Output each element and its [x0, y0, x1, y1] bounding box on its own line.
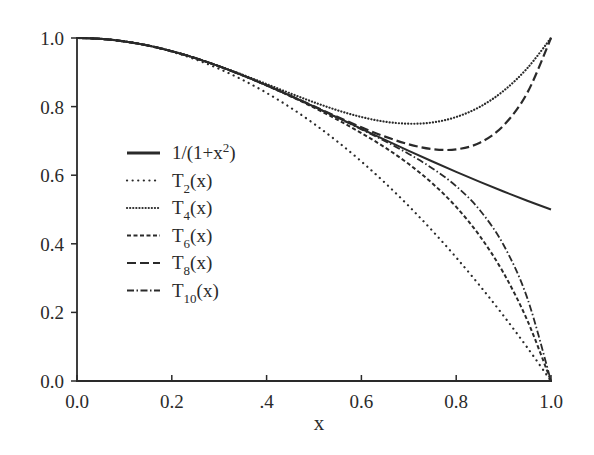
- legend-item: T6(x): [127, 225, 212, 251]
- x-tick-label: .4: [259, 391, 274, 412]
- legend-label: T6(x): [172, 225, 212, 251]
- x-axis-title: x: [314, 411, 325, 435]
- series-line-1: [77, 38, 551, 381]
- x-tick-label: 1.0: [539, 391, 563, 412]
- y-tick-label: 0.8: [40, 97, 64, 118]
- series-line-4: [77, 38, 551, 150]
- series-line-3: [77, 38, 551, 381]
- legend-item: T8(x): [127, 252, 212, 278]
- legend-label: T10(x): [172, 280, 219, 306]
- legend-item: T2(x): [127, 170, 212, 196]
- legend-label: T2(x): [172, 170, 212, 196]
- series-line-0: [77, 38, 551, 210]
- legend-item: T4(x): [127, 197, 212, 223]
- x-tick-label: 0.0: [65, 391, 89, 412]
- series-line-5: [77, 38, 551, 381]
- y-ticks: 0.00.20.40.60.81.0: [40, 28, 77, 392]
- legend-label: T4(x): [172, 197, 212, 223]
- series-line-2: [77, 38, 551, 124]
- y-tick-label: 1.0: [40, 28, 64, 49]
- chart-canvas: 0.00.20.40.60.81.0 0.00.2.40.60.81.0 x 1…: [0, 0, 594, 455]
- y-tick-label: 0.0: [40, 371, 64, 392]
- y-tick-label: 0.4: [40, 234, 64, 255]
- legend-label: T8(x): [172, 252, 212, 278]
- legend-label: 1/(1+x2): [172, 140, 236, 164]
- x-tick-label: 0.8: [444, 391, 468, 412]
- axes: [76, 37, 552, 382]
- legend: 1/(1+x2)T2(x)T4(x)T6(x)T8(x)T10(x): [127, 140, 236, 306]
- legend-item: 1/(1+x2): [127, 140, 236, 164]
- y-tick-label: 0.6: [40, 165, 64, 186]
- plot-curves: [77, 38, 551, 381]
- legend-item: T10(x): [127, 280, 219, 306]
- y-tick-label: 0.2: [40, 302, 64, 323]
- x-tick-label: 0.2: [160, 391, 184, 412]
- x-tick-label: 0.6: [350, 391, 374, 412]
